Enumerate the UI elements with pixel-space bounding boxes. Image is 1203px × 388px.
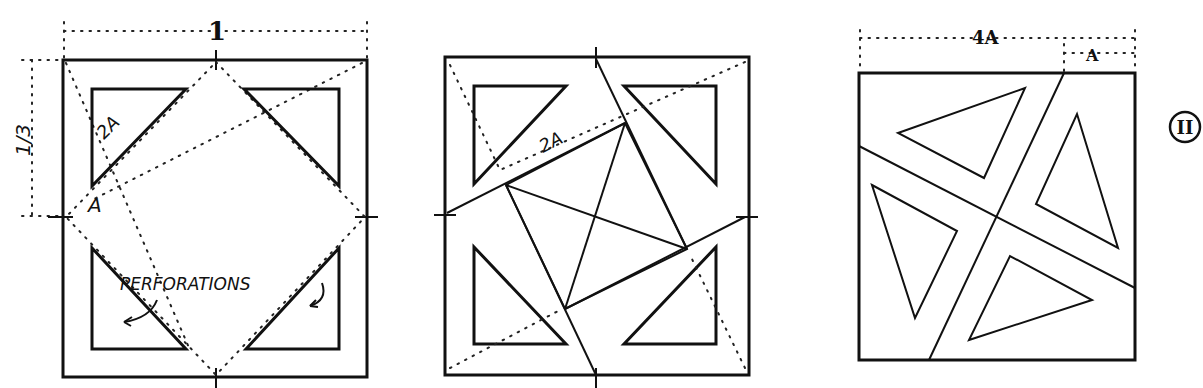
perforation-triangle-bl	[474, 247, 566, 344]
perforation-triangle-br	[624, 247, 716, 344]
dimension-a-label: A	[1085, 46, 1099, 65]
dimension-4a-label: 4A	[972, 27, 1000, 48]
width-label: 1	[208, 16, 226, 46]
annotation-arrow-right	[310, 283, 324, 306]
perforation-triangle-br	[246, 248, 339, 349]
left-panel: 1 1/3 2A A PERFORATIONS	[11, 16, 378, 388]
perforation-triangle-bl	[92, 248, 186, 349]
perforation-triangle-bottom	[969, 256, 1092, 340]
diag-2a-label: 2A	[535, 127, 566, 157]
perforation-triangle-tr	[244, 89, 339, 186]
perforation-triangle-top	[898, 88, 1025, 178]
perforations-annotation: PERFORATIONS	[120, 274, 251, 294]
middle-panel: 2A	[434, 47, 758, 388]
right-panel: 4A A II	[859, 27, 1200, 360]
perforation-triangle-left	[872, 185, 957, 318]
diag-2a-label: 2A	[92, 111, 124, 143]
outer-square	[445, 57, 749, 375]
height-fraction-label: 1/3	[11, 124, 35, 156]
a-label: A	[86, 193, 102, 217]
perforation-diagram: 1 1/3 2A A PERFORATIONS	[0, 0, 1203, 388]
dotted-diamond	[66, 62, 365, 375]
perforation-triangle-right	[1036, 114, 1118, 248]
outer-square	[63, 60, 367, 377]
figure-number: II	[1177, 117, 1194, 138]
perforation-triangle-tr	[624, 86, 716, 184]
